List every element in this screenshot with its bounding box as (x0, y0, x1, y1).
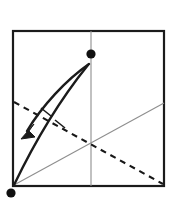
origami-diagram-canvas (0, 0, 173, 201)
bottom-left-reference-dot (6, 188, 15, 197)
origami-step-figure: ③ (0, 0, 173, 201)
top-reference-dot (86, 49, 95, 58)
